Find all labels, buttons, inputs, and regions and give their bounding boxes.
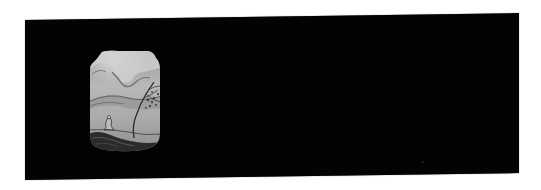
dust-speck bbox=[422, 161, 424, 163]
photo-scene: Black lacquer panel with painted landsca… bbox=[0, 0, 541, 190]
landscape-painting bbox=[88, 50, 162, 152]
painted-landscape-cartouche bbox=[88, 50, 162, 152]
